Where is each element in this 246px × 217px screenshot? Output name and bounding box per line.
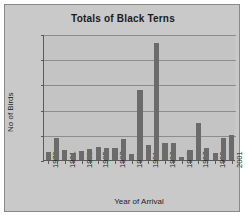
bar [46,152,51,160]
y-tick-mark [41,85,44,86]
bar [162,143,167,160]
bar [221,138,226,160]
gridline [44,35,236,36]
x-tick-mark [173,161,174,164]
x-tick-mark [182,161,183,164]
y-tick-mark [41,111,44,112]
y-tick-mark [41,35,44,36]
chart-figure: Totals of Black Terns No of Birds 197919… [4,4,240,212]
chart-title: Totals of Black Terns [5,13,241,24]
x-tick-mark [190,161,191,164]
bar [79,151,84,160]
x-tick-mark [140,161,141,164]
bar [129,154,134,160]
bar [54,138,59,160]
x-tick-mark [57,161,58,164]
x-tick-mark [115,161,116,164]
y-axis-label: No of Birds [6,92,15,132]
bar [187,150,192,160]
bar [154,43,159,160]
x-tick-mark [123,161,124,164]
bar [213,153,218,160]
bar [62,150,67,160]
x-axis-label: Year of Arrival [43,197,235,206]
bar [204,148,209,160]
x-tick-mark [157,161,158,164]
x-tick-mark [198,161,199,164]
x-tick-mark [165,161,166,164]
x-tick-mark [148,161,149,164]
y-tick-mark [41,161,44,162]
bar [121,139,126,160]
x-tick-mark [207,161,208,164]
bar [71,153,76,160]
bar [112,148,117,160]
x-tick-mark [98,161,99,164]
gridline [44,60,236,61]
x-tick-mark [48,161,49,164]
x-tick-mark [215,161,216,164]
y-tick-mark [41,136,44,137]
bar [179,157,184,160]
x-tick-mark [90,161,91,164]
x-tick-mark [73,161,74,164]
x-tick-mark [65,161,66,164]
bar [229,135,234,160]
x-tick-mark [107,161,108,164]
x-tick-mark [223,161,224,164]
y-tick-mark [41,60,44,61]
gridline [44,85,236,86]
x-tick-mark [132,161,133,164]
bar [137,90,142,160]
bar [104,148,109,160]
x-tick-label: 2001 [235,151,244,168]
plot-area: 1979198119831985198719891991199319951997… [43,35,235,161]
bar [171,143,176,160]
x-tick-mark [82,161,83,164]
x-tick-mark [232,161,233,164]
bar [87,149,92,160]
